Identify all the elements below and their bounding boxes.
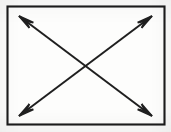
figure-canvas	[0, 0, 171, 132]
diagram-svg	[0, 0, 171, 132]
